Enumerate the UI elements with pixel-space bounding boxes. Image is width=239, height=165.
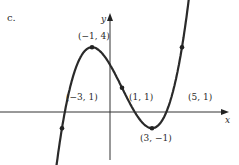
cubic-curve xyxy=(44,0,199,165)
graph: c. x y (−1, 4) (−3, 1) (1, 1) (3, −1) (5… xyxy=(0,0,239,165)
y-axis-label: y xyxy=(100,14,107,24)
data-point xyxy=(150,126,155,131)
y-axis-arrow-icon xyxy=(107,13,113,21)
points xyxy=(60,45,185,131)
data-point xyxy=(60,126,65,131)
data-point xyxy=(180,45,185,50)
label-point-a: (−3, 1) xyxy=(66,92,98,102)
x-axis-label: x xyxy=(225,115,230,125)
label-point-c: (5, 1) xyxy=(188,92,212,102)
label-point-b: (1, 1) xyxy=(129,92,153,102)
label-point-max: (−1, 4) xyxy=(78,31,110,41)
data-point xyxy=(90,45,95,50)
label-point-min: (3, −1) xyxy=(140,133,172,143)
data-point xyxy=(120,85,125,90)
part-label: c. xyxy=(7,12,16,23)
